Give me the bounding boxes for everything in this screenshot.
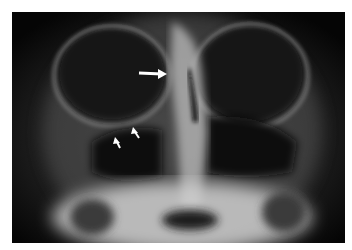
radiograph-image bbox=[12, 12, 345, 243]
xray-illustration bbox=[12, 12, 345, 243]
